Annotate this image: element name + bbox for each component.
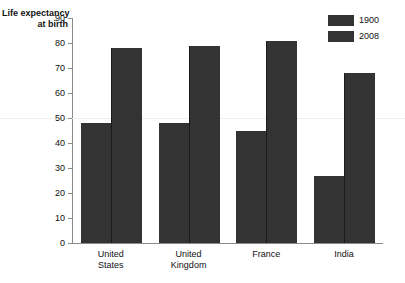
y-tick-label: 10 xyxy=(55,214,65,223)
y-tick-mark xyxy=(68,143,72,144)
bar-united-states-1900 xyxy=(81,123,111,243)
x-category-label-line: United xyxy=(72,249,150,260)
x-category-label-united-kingdom: UnitedKingdom xyxy=(150,249,228,271)
y-tick-label: 0 xyxy=(60,239,65,248)
y-tick-mark xyxy=(68,243,72,244)
x-axis-line xyxy=(72,243,383,244)
y-tick-label: 90 xyxy=(55,14,65,23)
y-tick-label: 20 xyxy=(55,189,65,198)
x-category-label-france: France xyxy=(228,249,306,260)
bar-united-kingdom-2008 xyxy=(189,46,220,244)
y-tick-mark xyxy=(68,93,72,94)
y-tick-label: 50 xyxy=(55,114,65,123)
y-tick-label: 80 xyxy=(55,39,65,48)
bar-chart: Life expectancy at birth 1900 2008 01020… xyxy=(0,0,405,283)
y-tick-mark xyxy=(68,168,72,169)
x-category-label-line: India xyxy=(305,249,383,260)
bar-india-1900 xyxy=(314,176,344,244)
y-tick-label: 40 xyxy=(55,139,65,148)
y-tick-label: 60 xyxy=(55,89,65,98)
y-tick-mark xyxy=(68,118,72,119)
x-category-label-line: States xyxy=(72,260,150,271)
x-category-label-line: France xyxy=(228,249,306,260)
y-tick-mark xyxy=(68,218,72,219)
y-tick-mark xyxy=(68,193,72,194)
y-tick-mark xyxy=(68,18,72,19)
x-category-label-line: United xyxy=(150,249,228,260)
x-category-label-india: India xyxy=(305,249,383,260)
y-axis-line xyxy=(72,18,73,243)
y-tick-label: 70 xyxy=(55,64,65,73)
x-category-label-united-states: UnitedStates xyxy=(72,249,150,271)
y-tick-mark xyxy=(68,68,72,69)
y-tick-mark xyxy=(68,43,72,44)
y-tick-label: 30 xyxy=(55,164,65,173)
bar-india-2008 xyxy=(344,73,375,243)
x-category-label-line: Kingdom xyxy=(150,260,228,271)
plot-area: 0102030405060708090 UnitedStatesUnitedKi… xyxy=(72,18,383,243)
bar-united-states-2008 xyxy=(111,48,142,243)
bar-france-1900 xyxy=(236,131,266,244)
bar-france-2008 xyxy=(266,41,297,244)
bar-united-kingdom-1900 xyxy=(159,123,189,243)
